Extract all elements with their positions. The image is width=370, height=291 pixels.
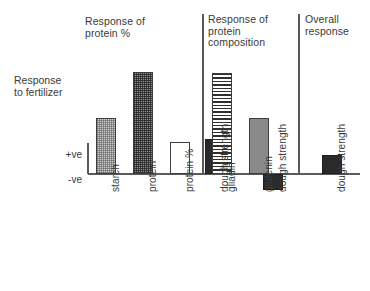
y-axis-line: [87, 143, 89, 174]
category-label-1: protein: [147, 161, 158, 192]
group-divider-2: [298, 14, 300, 174]
category-label-5: glutenin: [263, 156, 274, 192]
category-label-6: dough strength: [277, 124, 288, 192]
category-label-4: gliadin: [226, 162, 237, 192]
group-title-overall-response: Overall response: [305, 14, 367, 37]
group-divider-1: [202, 14, 204, 174]
group-title-response-of-protein-percent: Response of protein %: [85, 16, 185, 39]
category-label-2: protein %: [184, 149, 195, 192]
y-axis-label: Response to fertilizer: [14, 74, 106, 98]
bar-protein-1: [133, 72, 153, 174]
group-title-response-of-protein-composition: Response of protein composition: [208, 14, 290, 49]
y-tick-positive: +ve: [36, 149, 82, 160]
bar-chart: Response of protein % Response of protei…: [0, 0, 370, 291]
category-label-7: dough strength: [336, 124, 347, 192]
y-tick-negative: -ve: [36, 174, 82, 185]
category-label-0: starch: [110, 164, 121, 192]
